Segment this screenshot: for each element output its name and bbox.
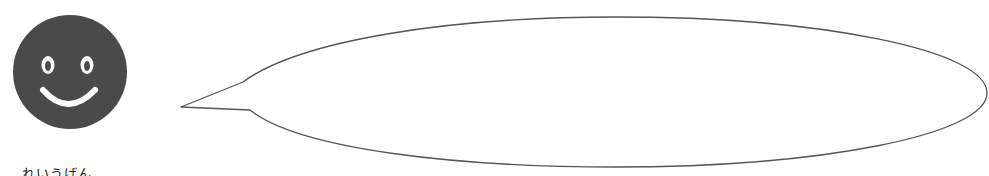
caption-text: れいうげん [22,163,92,176]
speech-bubble-icon [181,17,987,167]
left-eye-icon [42,56,55,74]
smiley-face-icon [13,15,127,129]
right-eye-icon [81,56,94,74]
illustration [0,0,989,176]
